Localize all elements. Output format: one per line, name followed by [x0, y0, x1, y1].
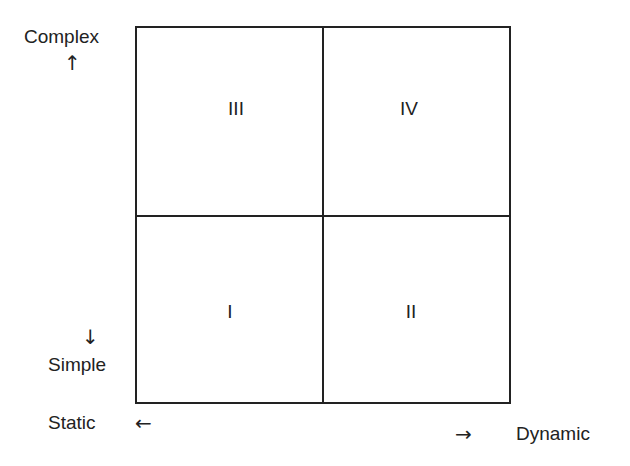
quadrant-label-top-left: III — [206, 99, 266, 119]
quadrant-label-top-right: IV — [379, 99, 439, 119]
x-axis-low-label: Static — [48, 412, 96, 434]
arrow-left-icon: ← — [135, 412, 152, 434]
arrow-up-icon: ↑ — [64, 52, 81, 74]
horizontal-divider — [135, 215, 511, 217]
x-axis-high-label: Dynamic — [516, 423, 590, 445]
quadrant-label-bottom-left: I — [200, 302, 260, 322]
quadrant-label-bottom-right: II — [381, 302, 441, 322]
y-axis-high-label: Complex — [24, 26, 99, 48]
y-axis-low-label: Simple — [48, 354, 106, 376]
arrow-right-icon: → — [455, 423, 472, 445]
arrow-down-icon: ↓ — [82, 326, 99, 348]
